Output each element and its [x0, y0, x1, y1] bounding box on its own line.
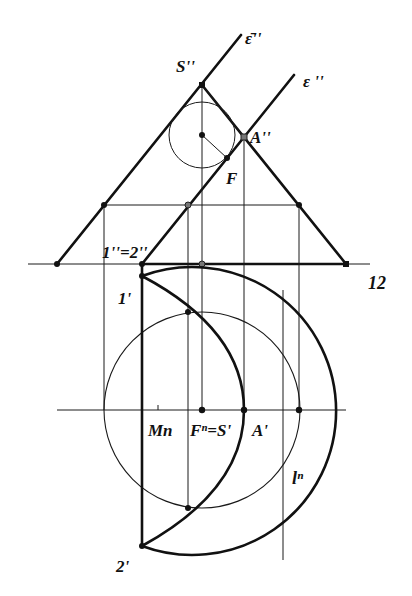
point-S2 — [199, 82, 205, 88]
sphere-radius-to-F — [202, 135, 227, 158]
label-Mn: Mn — [147, 421, 173, 440]
point-Fn-S1 — [199, 407, 205, 413]
sphere-center-point — [199, 132, 205, 138]
label-1-plan: 1' — [118, 289, 132, 308]
label-1-eq-2-frontal: 1''=2'' — [102, 243, 148, 262]
plane-eps-bar-trace — [57, 35, 241, 264]
point-base-right — [343, 261, 349, 267]
label-ln: lⁿ — [292, 468, 304, 488]
point-right-205 — [296, 202, 302, 208]
point-mid-205 — [185, 202, 191, 208]
point-lower-188 — [185, 505, 191, 511]
point-A2 — [241, 134, 247, 140]
label-axis-12: 12 — [368, 273, 386, 293]
outer-arc — [142, 267, 336, 555]
label-Fn-S1: Fⁿ=S' — [189, 421, 231, 440]
point-base-left — [54, 261, 60, 267]
point-F — [224, 155, 230, 161]
label-A1: A' — [251, 421, 268, 440]
label-F: F — [225, 169, 238, 188]
point-upper-188 — [185, 309, 191, 315]
point-A1 — [241, 407, 247, 413]
point-right-410 — [296, 407, 302, 413]
point-1-plan — [139, 273, 145, 279]
construction-drawing: ε̄'' ε '' S'' A'' F 1''=2'' 12 1' Mn Fⁿ=… — [0, 0, 412, 596]
label-eps-bar: ε̄'' — [245, 29, 262, 48]
point-2-plan — [139, 543, 145, 549]
point-left-205 — [101, 202, 107, 208]
intersection-curve — [142, 276, 244, 546]
generator-thin — [202, 85, 244, 137]
label-eps: ε '' — [303, 72, 324, 91]
label-2-plan: 2' — [115, 557, 130, 576]
label-A2: A'' — [249, 128, 271, 147]
label-S2: S'' — [176, 57, 195, 76]
